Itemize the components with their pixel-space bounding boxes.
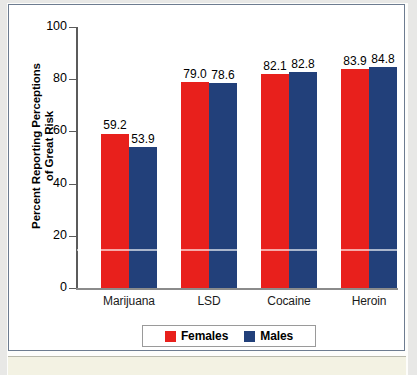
legend-item-females[interactable]: Females [165, 329, 228, 343]
x-axis-label-heroin: Heroin [321, 294, 417, 308]
bar-value-label: 78.6 [203, 68, 243, 82]
y-axis-tick [69, 131, 76, 132]
x-axis-line [76, 288, 398, 290]
page-margin-top [0, 0, 417, 3]
bar-value-label: 84.8 [363, 52, 403, 66]
y-axis-tick [69, 236, 76, 237]
chart-legend: FemalesMales [142, 325, 316, 347]
caption-band [8, 356, 406, 375]
y-axis-tick-label: 40 [27, 176, 67, 190]
legend-item-males[interactable]: Males [244, 329, 293, 343]
bar-heroin-females[interactable] [341, 69, 369, 288]
y-axis-tick [69, 288, 76, 289]
bar-heroin-males[interactable] [369, 67, 397, 288]
bar-lsd-males[interactable] [209, 83, 237, 288]
bar-value-label: 59.2 [95, 118, 135, 132]
y-axis-tick [69, 79, 76, 80]
bar-cocaine-females[interactable] [261, 74, 289, 288]
bar-lsd-females[interactable] [181, 82, 209, 288]
bar-chart-plot-area: Percent Reporting Perceptions of Great R… [9, 5, 406, 352]
legend-swatch-females [165, 331, 176, 342]
page-margin-left [0, 0, 7, 375]
y-axis-tick-label: 20 [27, 228, 67, 242]
bar-marijuana-females[interactable] [101, 134, 129, 289]
y-axis-tick-label: 80 [27, 71, 67, 85]
legend-label: Females [181, 329, 228, 343]
bar-value-label: 82.8 [283, 57, 323, 71]
chart-frame: Percent Reporting Perceptions of Great R… [8, 4, 405, 351]
bar-value-label: 53.9 [123, 132, 163, 146]
page-margin-right [408, 0, 417, 375]
bar-marijuana-males[interactable] [129, 147, 157, 288]
y-axis-tick [69, 27, 76, 28]
y-axis-tick [69, 184, 76, 185]
bar-cocaine-males[interactable] [289, 72, 317, 288]
legend-label: Males [260, 329, 293, 343]
legend-swatch-males [244, 331, 255, 342]
scan-artifact-line [77, 249, 398, 251]
y-axis-tick-label: 60 [27, 123, 67, 137]
figure-page: Percent Reporting Perceptions of Great R… [0, 0, 417, 375]
y-axis-tick-label: 100 [27, 19, 67, 33]
y-axis-tick-label: 0 [27, 280, 67, 294]
